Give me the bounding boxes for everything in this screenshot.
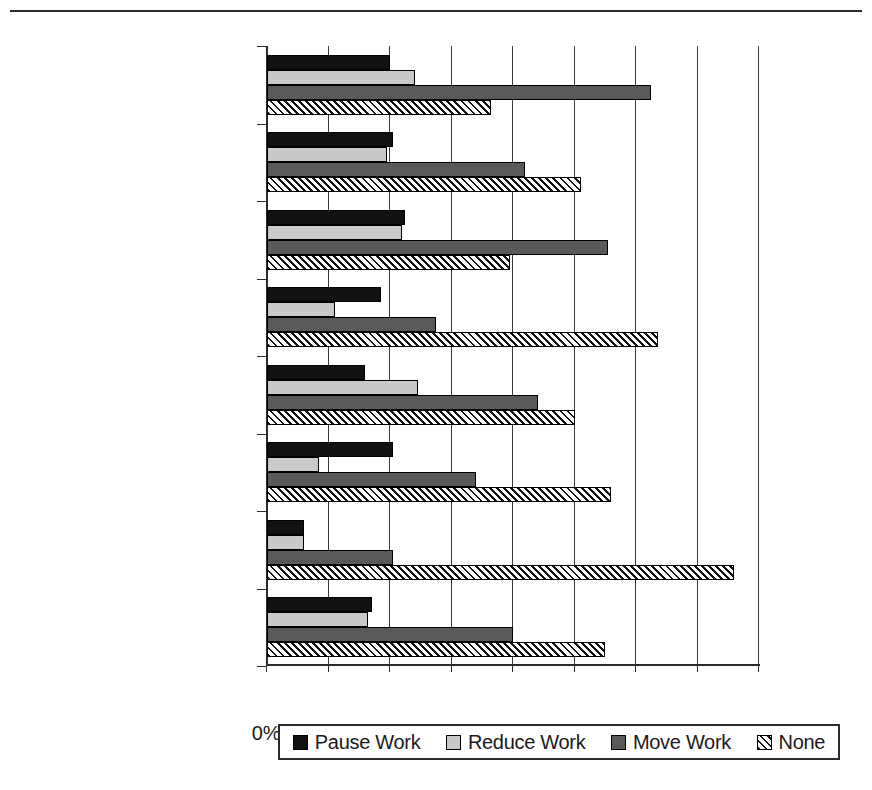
legend-item-label: Reduce Work <box>468 731 586 754</box>
solid-black-swatch <box>293 735 308 750</box>
x-axis-tick <box>451 664 452 672</box>
bar-move <box>267 550 393 565</box>
bar-pause <box>267 55 390 70</box>
chart-legend: Pause WorkReduce WorkMove WorkNone <box>278 724 840 760</box>
x-axis-line <box>266 664 760 666</box>
bar-none <box>267 487 611 502</box>
bar-pause <box>267 210 405 225</box>
bar-reduce <box>267 457 319 472</box>
x-axis-tick <box>266 664 267 672</box>
y-axis-category-tick <box>257 511 266 512</box>
bar-move <box>267 395 538 410</box>
y-axis-category-tick <box>257 46 266 47</box>
solid-dark-gray-swatch <box>611 735 626 750</box>
legend-item[interactable]: Pause Work <box>293 731 421 754</box>
solid-light-gray-swatch <box>446 735 461 750</box>
x-axis-tick <box>635 664 636 672</box>
bar-pause <box>267 287 381 302</box>
y-axis-category-tick <box>257 666 266 667</box>
y-axis-category-tick <box>257 356 266 357</box>
legend-item-label: Pause Work <box>315 731 421 754</box>
bar-none <box>267 177 581 192</box>
bar-move <box>267 162 525 177</box>
bar-reduce <box>267 225 402 240</box>
legend-item-label: Move Work <box>633 731 731 754</box>
bar-pause <box>267 132 393 147</box>
plot-area: 0%10%20%30%40%50%60%70%80% Accom & Food … <box>266 46 758 666</box>
bar-move <box>267 240 608 255</box>
bar-move <box>267 627 513 642</box>
bar-none <box>267 642 605 657</box>
bar-none <box>267 565 734 580</box>
bar-pause <box>267 597 372 612</box>
y-axis-category-tick <box>257 124 266 125</box>
bar-pause <box>267 365 365 380</box>
bar-reduce <box>267 535 304 550</box>
gridline <box>758 46 759 666</box>
x-axis-tick <box>697 664 698 672</box>
y-axis-category-tick <box>257 279 266 280</box>
y-axis-category-tick <box>257 201 266 202</box>
chart-figure: 0%10%20%30%40%50%60%70%80% Accom & Food … <box>0 0 872 790</box>
bar-none <box>267 410 575 425</box>
legend-item[interactable]: Move Work <box>611 731 731 754</box>
bar-reduce <box>267 302 335 317</box>
legend-item-label: None <box>779 731 826 754</box>
bar-move <box>267 317 436 332</box>
legend-item[interactable]: None <box>757 731 826 754</box>
x-axis-tick <box>328 664 329 672</box>
x-axis-tick <box>758 664 759 672</box>
bar-pause <box>267 442 393 457</box>
bar-reduce <box>267 380 418 395</box>
x-axis-tick <box>512 664 513 672</box>
bar-reduce <box>267 147 387 162</box>
diagonal-hatch-swatch <box>757 735 772 750</box>
y-axis-category-tick <box>257 434 266 435</box>
bar-reduce <box>267 612 368 627</box>
bar-move <box>267 85 651 100</box>
top-divider-rule <box>10 10 862 12</box>
legend-item[interactable]: Reduce Work <box>446 731 586 754</box>
bar-reduce <box>267 70 415 85</box>
x-axis-tick <box>574 664 575 672</box>
bar-move <box>267 472 476 487</box>
y-axis-category-tick <box>257 589 266 590</box>
x-axis-tick <box>389 664 390 672</box>
bar-pause <box>267 520 304 535</box>
bar-none <box>267 332 658 347</box>
bar-none <box>267 100 491 115</box>
bar-none <box>267 255 510 270</box>
